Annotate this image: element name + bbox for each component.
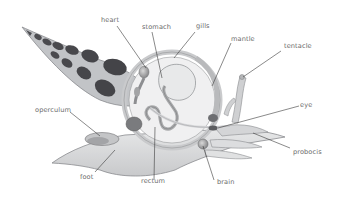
label-mantle: mantle — [231, 35, 255, 43]
label-tentacle: tentacle — [284, 42, 312, 50]
label-gills: gills — [196, 22, 210, 30]
label-foot: foot — [80, 173, 93, 181]
label-stomach: stomach — [142, 23, 171, 31]
label-probocis: probocis — [293, 148, 322, 156]
label-heart: heart — [101, 16, 119, 24]
label-brain: brain — [217, 178, 234, 186]
label-eye: eye — [300, 101, 312, 109]
snail-anatomy-diagram: heart stomach gills mantle tentacle eye … — [0, 0, 342, 203]
label-rectum: rectum — [141, 177, 165, 185]
label-operculum: operculum — [35, 106, 71, 114]
